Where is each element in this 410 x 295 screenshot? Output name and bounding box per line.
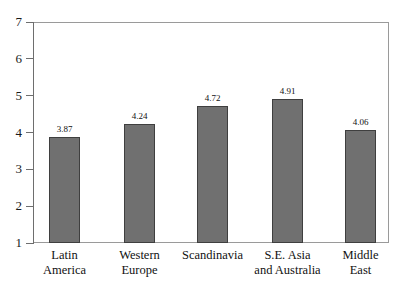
category-label-line1: Middle bbox=[311, 248, 410, 263]
y-axis-tick-label: 6 bbox=[0, 52, 22, 65]
bar bbox=[272, 99, 303, 243]
y-axis-tick-label: 3 bbox=[0, 162, 22, 175]
category-label-line2: East bbox=[311, 263, 410, 278]
y-axis-line bbox=[33, 22, 34, 244]
bar bbox=[124, 124, 155, 243]
bar bbox=[345, 130, 376, 243]
y-axis-tick-label: 4 bbox=[0, 126, 22, 139]
bar-value-label: 4.91 bbox=[265, 86, 311, 96]
bar-value-label: 4.24 bbox=[117, 111, 163, 121]
y-axis-tick bbox=[26, 22, 33, 23]
y-axis-tick bbox=[26, 132, 33, 133]
y-axis-tick bbox=[26, 243, 33, 244]
y-axis-tick bbox=[26, 58, 33, 59]
bar-chart: 1234567 3.874.244.724.914.06 LatinAmeric… bbox=[0, 0, 410, 295]
y-axis-tick-label: 7 bbox=[0, 15, 22, 28]
y-axis-tick bbox=[26, 169, 33, 170]
category-label-line2: Europe bbox=[90, 263, 190, 278]
bar-value-label: 3.87 bbox=[42, 124, 88, 134]
x-axis-category-label: MiddleEast bbox=[311, 248, 410, 278]
bar-value-label: 4.06 bbox=[338, 117, 384, 127]
y-axis-tick bbox=[26, 206, 33, 207]
y-axis-tick bbox=[26, 95, 33, 96]
bar-value-label: 4.72 bbox=[190, 93, 236, 103]
y-axis-tick-label: 5 bbox=[0, 89, 22, 102]
bar bbox=[197, 106, 228, 243]
y-axis-tick-label: 2 bbox=[0, 199, 22, 212]
bar bbox=[49, 137, 80, 243]
